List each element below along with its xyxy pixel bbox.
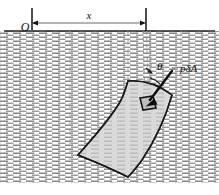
theta-label: θ	[157, 60, 163, 72]
figure-container: x O θ	[0, 0, 219, 195]
x-arrowhead-left	[32, 20, 38, 25]
fluid-pressure-diagram: x O θ	[0, 0, 219, 195]
origin-label: O	[21, 20, 30, 34]
x-arrowhead-right	[140, 20, 146, 25]
x-dimension: x	[32, 8, 146, 31]
force-label: pδA	[179, 62, 198, 74]
x-label: x	[86, 9, 92, 21]
